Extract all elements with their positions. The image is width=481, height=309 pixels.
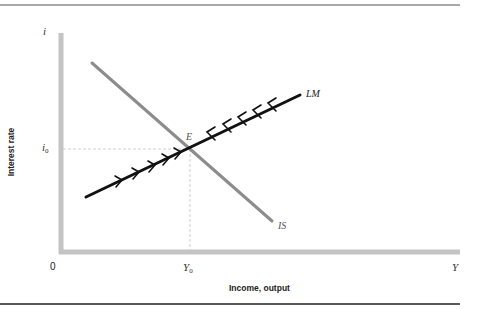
lm-curve	[86, 95, 300, 197]
y-axis-title: Interest rate	[6, 128, 16, 177]
x-axis-symbol: Y	[452, 261, 458, 273]
is-lm-diagram	[0, 0, 481, 309]
y0-subscript: 0	[189, 267, 193, 275]
x-axis-title: Income, output	[229, 283, 290, 293]
i0-tick-label: i0	[42, 141, 49, 155]
equilibrium-label: E	[186, 131, 192, 142]
y-axis-symbol: i	[43, 25, 46, 37]
origin-label: 0	[50, 261, 56, 272]
is-label: IS	[278, 220, 286, 231]
y0-tick-label: Y0	[183, 261, 193, 275]
lm-label: LM	[306, 88, 320, 99]
bottom-rule	[0, 303, 460, 305]
is-curve	[92, 63, 272, 221]
i0-subscript: 0	[45, 147, 49, 155]
